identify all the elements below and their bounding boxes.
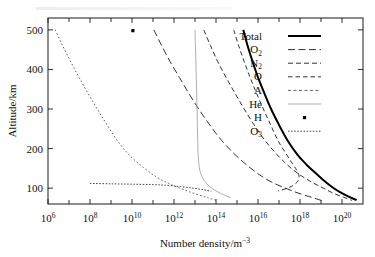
y-axis-title: Altitude/km — [6, 84, 18, 138]
x-tick-label: 106 — [41, 211, 56, 224]
x-tick-label: 1010 — [123, 211, 142, 224]
cropped-caption-artifact — [36, 7, 232, 10]
y-tick-label: 100 — [27, 182, 44, 194]
legend-label: H — [254, 111, 262, 123]
legend-label: A — [254, 84, 262, 96]
y-tick-label: 300 — [27, 103, 44, 115]
legend-sample-marker — [303, 116, 306, 119]
legend-label: Total — [240, 30, 262, 42]
x-tick-label: 1012 — [165, 211, 184, 224]
x-axis-title: Number density/m−3 — [160, 236, 250, 249]
plot-frame — [48, 18, 363, 204]
y-tick-label: 400 — [27, 63, 44, 75]
series-marker-h — [131, 29, 134, 32]
x-tick-label: 1018 — [291, 211, 310, 224]
figure-container: 106108101010121014101610181020 100200300… — [0, 0, 375, 257]
legend-label: O — [254, 70, 262, 82]
atmosphere-number-density-chart: 106108101010121014101610181020 100200300… — [0, 0, 375, 257]
y-tick-label: 500 — [27, 24, 44, 36]
x-axis-tick-labels: 106108101010121014101610181020 — [41, 211, 352, 224]
y-tick-label: 200 — [27, 143, 44, 155]
x-tick-label: 1020 — [333, 211, 352, 224]
x-tick-label: 1016 — [249, 211, 268, 224]
legend-label: He — [249, 98, 262, 110]
y-axis-tick-labels: 100200300400500 — [27, 24, 44, 194]
x-tick-label: 1014 — [207, 211, 226, 224]
x-tick-label: 108 — [83, 211, 98, 224]
